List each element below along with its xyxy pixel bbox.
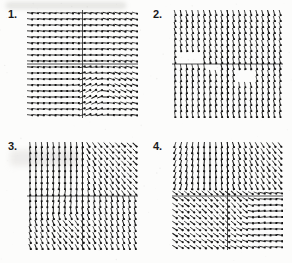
panel-3-plot-area xyxy=(27,142,138,250)
panel-1-plot-area xyxy=(27,10,138,118)
panel-4-plot-area xyxy=(172,142,283,250)
figure-sheet: 1. 2. 3. 4. xyxy=(0,0,292,263)
scan-smudge-top xyxy=(6,2,126,9)
panel-2-label: 2. xyxy=(153,9,162,20)
panel-2-plot-area xyxy=(172,10,283,118)
panel-4-label: 4. xyxy=(153,141,162,152)
panel-3-label: 3. xyxy=(8,141,17,152)
panel-1-label: 1. xyxy=(8,9,17,20)
